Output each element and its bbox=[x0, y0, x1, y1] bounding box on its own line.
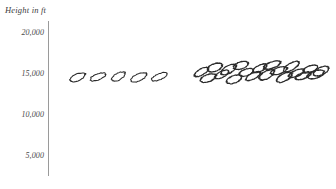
chart-container: Height in ft 20,00015,00010,0005,000 bbox=[0, 0, 336, 189]
plot-area bbox=[0, 0, 336, 189]
data-point-marker bbox=[313, 66, 329, 76]
data-point-marker bbox=[131, 73, 147, 82]
data-point-marker bbox=[151, 72, 167, 81]
marker-layer bbox=[0, 0, 336, 189]
data-point-marker bbox=[111, 72, 125, 81]
data-point-marker bbox=[90, 73, 106, 81]
data-point-marker bbox=[194, 67, 209, 77]
data-point-marker bbox=[69, 73, 85, 82]
data-point-marker bbox=[226, 75, 242, 84]
